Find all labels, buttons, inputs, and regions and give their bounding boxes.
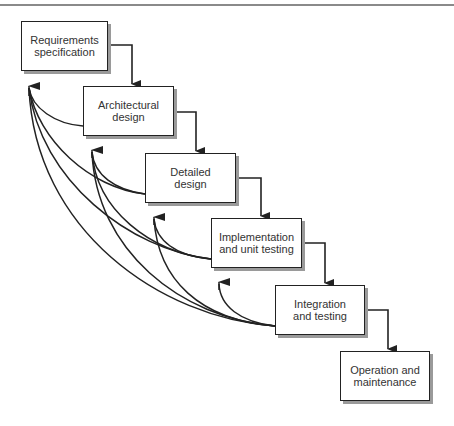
stage-detailed-design: Detaileddesign <box>145 153 236 203</box>
edge-req-arch <box>108 45 132 84</box>
stage-integration-testing: Integrationand testing <box>275 285 365 335</box>
edge-impl-integ <box>302 243 325 283</box>
stage-label-line2: and unit testing <box>219 243 294 255</box>
stage-label-line2: design <box>112 111 144 123</box>
stage-label-line2: maintenance <box>354 376 417 388</box>
stage-label-line2: design <box>174 178 206 190</box>
stage-requirements-specification: Requirementsspecification <box>21 21 108 71</box>
edge-arch-det <box>174 112 196 151</box>
stage-label-line1: Architectural <box>98 99 159 111</box>
stage-label-line2: specification <box>34 46 95 58</box>
feedback-integ-impl <box>219 284 275 326</box>
stage-label-line1: Implementation <box>219 231 294 243</box>
feedback-impl-det <box>154 219 211 259</box>
edge-integ-ops <box>365 310 388 349</box>
feedback-arch-req <box>29 88 83 126</box>
stage-label-line2: and testing <box>293 310 347 322</box>
stage-implementation-unit-testing: Implementationand unit testing <box>211 218 302 268</box>
stage-label-line1: Detailed <box>170 166 210 178</box>
stage-operation-maintenance: Operation andmaintenance <box>340 351 430 401</box>
edge-det-impl <box>236 178 261 216</box>
stage-architectural-design: Architecturaldesign <box>83 86 174 136</box>
stage-label-line1: Requirements <box>30 34 98 46</box>
stage-label-line1: Integration <box>294 298 346 310</box>
stage-label-line1: Operation and <box>350 364 420 376</box>
